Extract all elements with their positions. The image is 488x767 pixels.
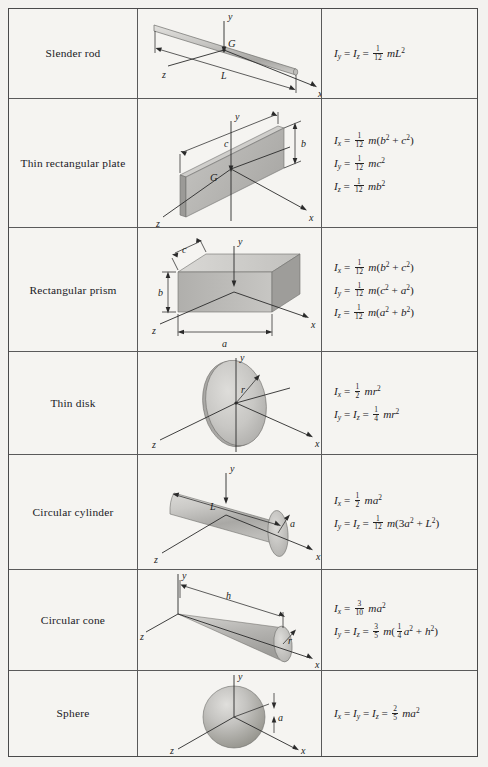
shape-name-label: Slender rod: [45, 46, 100, 60]
axis-label-z: z: [153, 554, 158, 565]
slender-rod-diagram: y G z x L: [138, 9, 322, 98]
axis-label-x: x: [315, 551, 321, 562]
formula-line: Iy = Iz = 112 m(3a2 + L2): [334, 515, 477, 531]
centroid-label-G: G: [210, 172, 218, 183]
formula-cell: Ix = Iy = Iz = 25 ma2: [322, 671, 477, 756]
dimension-label-a: a: [222, 338, 227, 349]
cylinder-body: [170, 493, 290, 557]
thin-disk-diagram: y r z x: [138, 352, 322, 454]
formula-line: Iy = Iz = 112 mL2: [334, 45, 477, 61]
axis-label-y: y: [181, 570, 187, 581]
shape-name-label: Circular cylinder: [33, 505, 114, 519]
formula-line: Ix = 112 m(b2 + c2): [334, 259, 477, 275]
shape-name-cell: Circular cylinder: [9, 455, 138, 569]
table-row: Circular cylinder: [9, 455, 477, 570]
shape-diagram-cell: y L a z x: [138, 455, 322, 569]
rod-body: [154, 25, 298, 75]
axis-label-y: y: [234, 111, 240, 122]
dimension-label-c: c: [182, 244, 187, 255]
circular-cylinder-diagram: y L a z x: [138, 455, 322, 569]
shape-name-cell: Slender rod: [9, 9, 138, 98]
formula-line: Ix = 12 mr2: [334, 383, 477, 399]
plate-body: [180, 126, 284, 217]
table-row: Slender rod: [9, 9, 477, 99]
centroid-label-G: G: [228, 38, 236, 49]
moments-of-inertia-table: Slender rod: [8, 8, 478, 757]
dimension-label-a: a: [278, 712, 283, 723]
axis-label-z: z: [169, 745, 174, 755]
formula-line: Ix = 12 ma2: [334, 492, 477, 508]
dimension-label-b: b: [158, 287, 163, 298]
formula-line: Iy = Iz = 14 mr2: [334, 406, 477, 422]
shape-diagram-cell: y c b z a x: [138, 228, 322, 351]
table-row: Rectangular prism: [9, 228, 477, 352]
dimension-label-L: L: [220, 70, 227, 81]
axis-label-z: z: [151, 439, 156, 450]
formula-line: Iz = 112 m(a2 + b2): [334, 304, 477, 320]
shape-diagram-cell: y c b G z x: [138, 99, 322, 228]
formula-line: Ix = 112 m(b2 + c2): [334, 132, 477, 148]
reference-table-page: Slender rod: [0, 0, 488, 767]
axis-label-x: x: [300, 745, 306, 755]
axis-label-y: y: [229, 463, 235, 474]
shape-name-cell: Thin disk: [9, 352, 138, 454]
table-row: Sphere: [9, 671, 477, 756]
shape-name-label: Thin rectangular plate: [21, 156, 126, 170]
axis-label-y: y: [237, 236, 243, 247]
cone-body: [178, 614, 294, 663]
formula-cell: Ix = 310 ma2 Iy = Iz = 35 m(14a2 + h2): [322, 570, 477, 671]
formula-cell: Iy = Iz = 112 mL2: [322, 9, 477, 98]
table-row: Circular cone: [9, 570, 477, 672]
formula-cell: Ix = 12 ma2 Iy = Iz = 112 m(3a2 + L2): [322, 455, 477, 569]
rectangular-prism-diagram: y c b z a x: [138, 228, 322, 351]
axis-label-x: x: [308, 212, 314, 223]
axis-label-z: z: [161, 69, 166, 80]
formula-line: Ix = 310 ma2: [334, 600, 477, 616]
prism-body: [178, 254, 300, 312]
dimension-label-L: L: [209, 501, 216, 512]
circular-cone-diagram: y h z r x: [138, 570, 322, 671]
shape-diagram-cell: y r z x: [138, 352, 322, 454]
shape-name-cell: Sphere: [9, 671, 138, 756]
axis-label-y: y: [239, 352, 245, 363]
shape-name-label: Sphere: [57, 706, 90, 720]
shape-diagram-cell: y G z x L: [138, 9, 322, 98]
formula-line: Iy = Iz = 35 m(14a2 + h2): [334, 623, 477, 639]
length-dimension: [155, 31, 296, 93]
axis-label-x: x: [314, 659, 320, 670]
dimension-label-a: a: [290, 518, 295, 529]
dimension-label-h: h: [226, 590, 231, 601]
shape-name-cell: Rectangular prism: [9, 228, 138, 351]
formula-cell: Ix = 12 mr2 Iy = Iz = 14 mr2: [322, 352, 477, 454]
formula-cell: Ix = 112 m(b2 + c2) Iy = 112 m(c2 + a2) …: [322, 228, 477, 351]
shape-diagram-cell: y a z x: [138, 671, 322, 756]
shape-name-cell: Circular cone: [9, 570, 138, 671]
thin-rectangular-plate-diagram: y c b G z x: [138, 99, 322, 228]
table-row: Thin disk: [9, 352, 477, 455]
formula-line: Iz = 112 mb2: [334, 178, 477, 194]
axis-label-z: z: [155, 218, 160, 228]
dimension-label-b: b: [301, 138, 306, 149]
axis-label-z: z: [151, 325, 156, 336]
axis-label-z: z: [139, 631, 144, 642]
axis-label-x: x: [317, 88, 322, 98]
formula-line: Iy = 112 mc2: [334, 155, 477, 171]
shape-diagram-cell: y h z r x: [138, 570, 322, 671]
shape-name-cell: Thin rectangular plate: [9, 99, 138, 228]
axis-label-x: x: [314, 438, 320, 449]
axis-label-x: x: [310, 319, 316, 330]
formula-line: Iy = 112 m(c2 + a2): [334, 282, 477, 298]
shape-name-label: Circular cone: [41, 613, 105, 627]
axis-label-y: y: [237, 671, 243, 682]
axis-label-y: y: [227, 11, 233, 22]
table-row: Thin rectangular plate: [9, 99, 477, 229]
shape-name-label: Rectangular prism: [29, 283, 116, 297]
dimension-label-r: r: [288, 635, 292, 646]
shape-name-label: Thin disk: [50, 396, 95, 410]
dimension-label-r: r: [241, 384, 245, 395]
formula-line: Ix = Iy = Iz = 25 ma2: [334, 705, 477, 721]
formula-cell: Ix = 112 m(b2 + c2) Iy = 112 mc2 Iz = 11…: [322, 99, 477, 228]
dimension-label-c: c: [224, 138, 229, 149]
sphere-diagram: y a z x: [138, 671, 322, 755]
